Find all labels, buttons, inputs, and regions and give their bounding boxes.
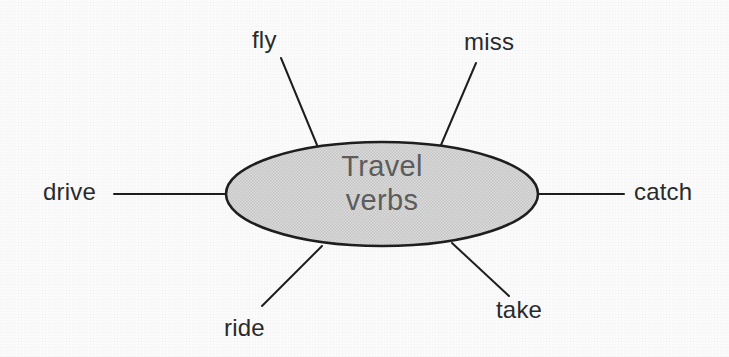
central-node-ellipse[interactable] bbox=[226, 142, 538, 246]
connector-line-fly bbox=[281, 58, 317, 145]
branch-label-miss[interactable]: miss bbox=[464, 30, 514, 54]
branch-label-drive[interactable]: drive bbox=[43, 180, 96, 204]
mind-map-canvas bbox=[0, 0, 729, 357]
connector-line-miss bbox=[441, 63, 476, 145]
connector-line-ride bbox=[262, 246, 322, 306]
branch-label-fly[interactable]: fly bbox=[252, 28, 277, 52]
branch-label-catch[interactable]: catch bbox=[634, 180, 692, 204]
mind-map-diagram: Travel verbs fly miss drive catch ride t… bbox=[0, 0, 729, 357]
branch-label-take[interactable]: take bbox=[496, 298, 542, 322]
branch-label-ride[interactable]: ride bbox=[224, 316, 265, 340]
connector-line-take bbox=[452, 243, 509, 296]
